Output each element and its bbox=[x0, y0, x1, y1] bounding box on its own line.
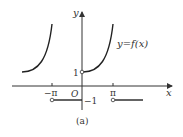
function-label: y=f(x) bbox=[116, 38, 148, 49]
open-point-pi bbox=[111, 98, 115, 102]
function-graph: y x O 1 −1 −π π y=f(x) (a) bbox=[0, 0, 183, 137]
origin-label: O bbox=[71, 89, 79, 99]
x-axis-label: x bbox=[166, 87, 172, 98]
tick-label-one: 1 bbox=[73, 68, 79, 78]
y-axis-label: y bbox=[72, 7, 79, 18]
caption: (a) bbox=[76, 116, 88, 126]
open-point-neg-pi bbox=[50, 98, 54, 102]
tick-label-neg-one: −1 bbox=[84, 96, 97, 106]
tick-label-neg-pi: −π bbox=[44, 88, 58, 98]
curve-left bbox=[22, 24, 52, 72]
curve-right bbox=[83, 24, 113, 72]
open-point-0-1 bbox=[80, 70, 84, 74]
tick-label-pi: π bbox=[110, 88, 116, 98]
